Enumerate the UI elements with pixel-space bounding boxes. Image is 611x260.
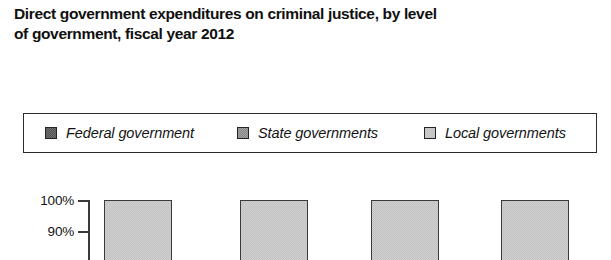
y-axis-tick-mark: [78, 231, 89, 233]
legend-item-label: Local governments: [445, 125, 566, 141]
legend-item-local-governments: Local governments: [424, 125, 566, 141]
bar-segment-local-governments: [371, 200, 439, 260]
legend-item-state-governments: State governments: [237, 125, 378, 141]
legend-row: Federal government State governments Loc…: [24, 114, 596, 152]
legend-item-label: Federal government: [66, 125, 194, 141]
legend-item-federal-government: Federal government: [45, 125, 194, 141]
y-axis-line: [88, 200, 90, 260]
chart-legend: Federal government State governments Loc…: [23, 113, 597, 153]
bar-segment-local-governments: [240, 200, 308, 260]
y-axis-tick-label: 90%: [16, 224, 74, 239]
medium-gray-dither-swatch-icon: [237, 127, 249, 139]
bar-segment-local-governments: [501, 200, 569, 260]
y-axis-tick-mark: [78, 200, 89, 202]
legend-item-label: State governments: [258, 125, 378, 141]
y-axis-tick-label: 100%: [16, 193, 74, 208]
page-title: Direct government expenditures on crimin…: [14, 4, 599, 44]
light-gray-dither-swatch-icon: [424, 127, 436, 139]
bar-segment-local-governments: [104, 200, 172, 260]
dark-gray-dither-swatch-icon: [45, 127, 57, 139]
